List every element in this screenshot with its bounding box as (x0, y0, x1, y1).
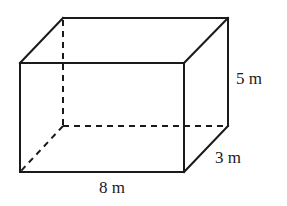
top-left-depth-edge (20, 18, 63, 63)
width-label: 3 m (215, 148, 241, 167)
hidden-bottom-left-depth-edge (20, 126, 63, 172)
height-label: 5 m (236, 69, 262, 88)
rectangular-prism-diagram: 5 m 3 m 8 m (0, 0, 287, 206)
length-label: 8 m (99, 178, 125, 197)
front-face (20, 63, 184, 172)
top-right-depth-edge (184, 18, 228, 63)
